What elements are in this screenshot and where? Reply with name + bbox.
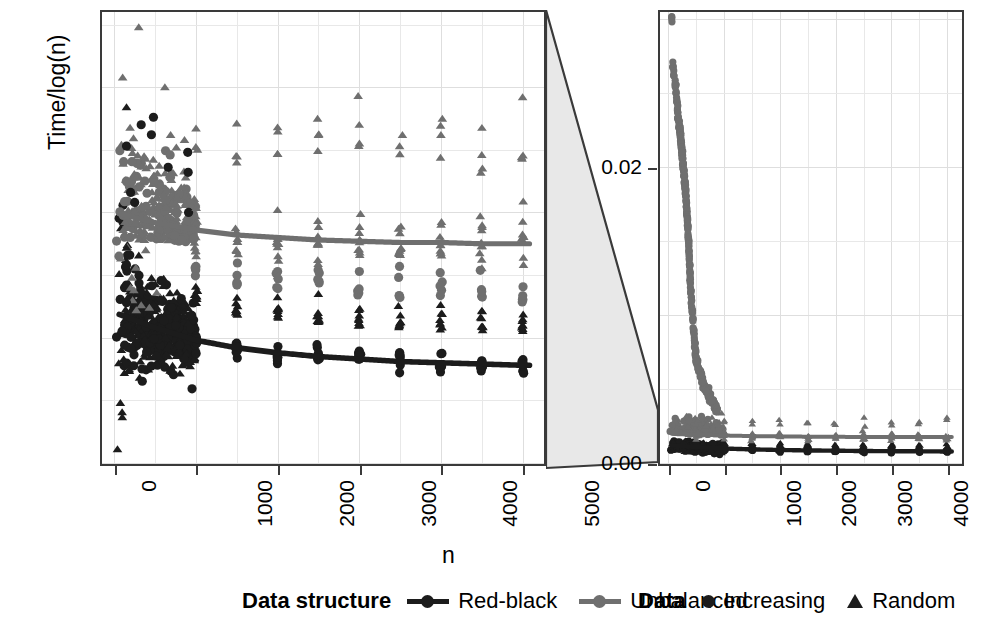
x-tick	[278, 466, 280, 475]
x-tick-label: 1000	[781, 480, 805, 527]
y-tick	[648, 168, 657, 170]
zoomed-panel	[100, 10, 546, 466]
legend-key-label: Increasing	[724, 588, 826, 614]
legend-key-increasing[interactable]: Increasing	[702, 588, 826, 614]
x-tick-label: 4000	[949, 480, 973, 527]
x-axis-label: n	[442, 542, 455, 569]
zoom-connector	[546, 10, 660, 470]
x-tick	[836, 466, 838, 475]
x-tick-label: 3000	[416, 480, 440, 527]
chart-figure: Time/log(n) n 010002000300040005000 0100…	[0, 0, 1008, 635]
x-tick-label: 5000	[580, 480, 604, 527]
x-tick	[360, 466, 362, 475]
x-tick	[725, 466, 727, 475]
legend-data: Data Increasing Random	[638, 588, 977, 614]
legend-title: Data structure	[242, 588, 391, 614]
x-tick	[892, 466, 894, 475]
x-tick	[196, 466, 198, 475]
x-tick-label: 0	[691, 480, 715, 492]
x-tick-label: 3000	[893, 480, 917, 527]
y-tick	[648, 464, 657, 466]
legend-key-red-black[interactable]: Red-black	[407, 588, 557, 614]
x-tick-label: 5000	[1004, 480, 1008, 527]
x-tick	[780, 466, 782, 475]
legend-key-random[interactable]: Random	[847, 588, 955, 614]
x-tick	[115, 466, 117, 475]
x-tick-label: 4000	[498, 480, 522, 527]
x-tick	[948, 466, 950, 475]
full-panel	[658, 10, 964, 466]
legend-key-label: Red-black	[458, 588, 557, 614]
triangle-icon	[847, 594, 863, 608]
x-tick-label: 2000	[837, 480, 861, 527]
y-tick-label: 0.02	[578, 155, 642, 179]
x-tick	[523, 466, 525, 475]
x-tick-label: 2000	[335, 480, 359, 527]
x-tick	[441, 466, 443, 475]
line-circle-icon	[407, 592, 449, 610]
line-circle-icon	[579, 592, 621, 610]
x-tick-label: 0	[136, 480, 160, 492]
circle-icon	[702, 595, 715, 608]
x-tick-label: 1000	[253, 480, 277, 527]
x-tick	[669, 466, 671, 475]
data-layer-right	[660, 12, 961, 463]
legend-key-label: Random	[872, 588, 955, 614]
legend-title: Data	[638, 588, 686, 614]
y-axis-label: Time/log(n)	[44, 0, 71, 150]
data-layer-left	[102, 12, 543, 463]
y-tick-label: 0.00	[578, 451, 642, 475]
